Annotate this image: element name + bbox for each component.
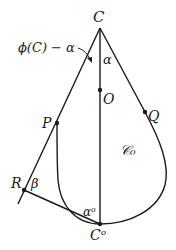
label-o: O: [103, 91, 115, 107]
point-p: [55, 121, 59, 125]
label-beta: β: [30, 176, 39, 191]
geometry-diagram: C ϕ(C) − α α O Q P 𝒞₀ R β αᵒ Cᵒ: [0, 0, 176, 250]
arrowhead-icon: [87, 57, 92, 63]
label-c: C: [93, 8, 105, 26]
label-region-c0: 𝒞₀: [120, 142, 136, 158]
label-q: Q: [148, 108, 160, 124]
point-q: [143, 110, 147, 114]
label-p: P: [41, 115, 52, 131]
point-co: [98, 222, 102, 226]
label-alpha-o: αᵒ: [83, 205, 96, 219]
point-r: [22, 188, 26, 192]
label-r: R: [10, 175, 22, 191]
label-angle-annotation: ϕ(C) − α: [18, 40, 75, 55]
label-alpha: α: [103, 52, 112, 67]
label-c-o: Cᵒ: [90, 227, 106, 243]
point-o: [98, 88, 102, 92]
